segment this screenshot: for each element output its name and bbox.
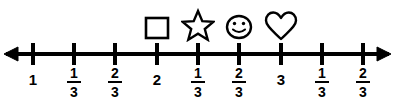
fraction-numerator: 1	[191, 66, 205, 81]
tick-label-1: 1	[29, 72, 37, 87]
fraction-denominator: 3	[191, 83, 205, 99]
fraction-denominator: 3	[315, 83, 329, 99]
tick-label-text: 3	[277, 71, 285, 88]
fraction: 2 3	[108, 66, 122, 99]
fraction: 2 3	[356, 66, 370, 99]
tick-label-3: 3	[277, 72, 285, 87]
fraction-numerator: 2	[232, 66, 246, 81]
fraction: 1 3	[191, 66, 205, 99]
fraction-numerator: 2	[108, 66, 122, 81]
tick-label-text: 2	[153, 71, 161, 88]
fraction-numerator: 1	[315, 66, 329, 81]
fraction: 2 3	[232, 66, 246, 99]
tick-label-3-2-3: 2 3	[356, 66, 370, 99]
tick-label-1-1-3: 1 3	[67, 66, 81, 99]
fraction-numerator: 1	[67, 66, 81, 81]
tick-label-3-1-3: 1 3	[315, 66, 329, 99]
fraction-denominator: 3	[356, 83, 370, 99]
tick-label-text: 1	[29, 71, 37, 88]
tick-label-layer: 1 1 3 2 3 2 1 3	[0, 0, 395, 106]
tick-label-1-2-3: 2 3	[108, 66, 122, 99]
fraction-denominator: 3	[67, 83, 81, 99]
fraction: 1 3	[67, 66, 81, 99]
fraction: 1 3	[315, 66, 329, 99]
tick-label-2-2-3: 2 3	[232, 66, 246, 99]
number-line-figure: 1 1 3 2 3 2 1 3	[0, 0, 395, 106]
fraction-denominator: 3	[108, 83, 122, 99]
fraction-denominator: 3	[232, 83, 246, 99]
tick-label-2: 2	[153, 72, 161, 87]
fraction-numerator: 2	[356, 66, 370, 81]
tick-label-2-1-3: 1 3	[191, 66, 205, 99]
